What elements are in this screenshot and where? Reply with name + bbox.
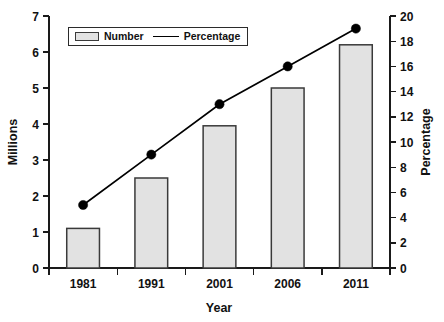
left-tick-label: 6 (32, 46, 39, 60)
line-swatch-icon (153, 36, 179, 37)
left-tick-label: 0 (32, 262, 39, 276)
percentage-marker-2011 (351, 24, 360, 33)
right-tick-label: 14 (400, 85, 414, 99)
right-tick-label: 4 (400, 211, 407, 225)
bar-2001 (203, 126, 236, 268)
left-axis-ticks: 01234567 (32, 10, 49, 276)
legend-item-number: Number (75, 31, 144, 42)
bar-2011 (340, 45, 373, 268)
x-tick-label-1991: 1991 (138, 277, 165, 291)
left-tick-label: 5 (32, 82, 39, 96)
right-tick-label: 8 (400, 161, 407, 175)
x-axis-tick-labels: 19811991200120062011 (70, 277, 369, 291)
right-axis-ticks: 02468101214161820 (390, 10, 414, 276)
bar-swatch-icon (75, 32, 99, 41)
x-tick-label-2006: 2006 (274, 277, 301, 291)
bar-series-number (67, 45, 373, 268)
percentage-marker-2001 (215, 100, 224, 109)
legend-label-percentage: Percentage (184, 31, 241, 42)
right-tick-label: 0 (400, 262, 407, 276)
right-tick-label: 18 (400, 35, 414, 49)
bar-1991 (135, 178, 168, 268)
right-tick-label: 20 (400, 10, 414, 24)
chart-legend: Number Percentage (68, 27, 248, 46)
bar-2006 (271, 88, 304, 268)
x-tick-label-1981: 1981 (70, 277, 97, 291)
left-tick-label: 2 (32, 190, 39, 204)
percentage-marker-1991 (147, 150, 156, 159)
x-axis-ticks (49, 268, 390, 275)
legend-item-percentage: Percentage (153, 31, 241, 42)
right-tick-label: 2 (400, 236, 407, 250)
right-axis-title: Percentage (419, 108, 433, 175)
x-tick-label-2011: 2011 (343, 277, 369, 291)
chart-container: 01234567 02468101214161820 1981199120012… (0, 0, 444, 322)
x-axis-title: Year (206, 301, 233, 315)
right-tick-label: 16 (400, 60, 414, 74)
bar-1981 (67, 228, 100, 268)
left-tick-label: 7 (32, 10, 39, 24)
legend-label-number: Number (104, 31, 144, 42)
percentage-marker-1981 (79, 200, 88, 209)
chart-canvas: 01234567 02468101214161820 1981199120012… (0, 0, 444, 322)
right-tick-label: 10 (400, 136, 414, 150)
left-tick-label: 4 (32, 118, 39, 132)
x-tick-label-2001: 2001 (206, 277, 233, 291)
percentage-marker-2006 (283, 62, 292, 71)
left-tick-label: 3 (32, 154, 39, 168)
left-tick-label: 1 (32, 226, 39, 240)
left-axis-title: Millions (6, 119, 20, 166)
right-tick-label: 12 (400, 110, 414, 124)
right-tick-label: 6 (400, 186, 407, 200)
